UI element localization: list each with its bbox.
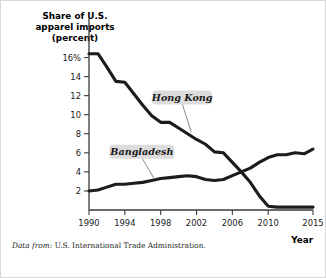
y-axis-title-line: (percent) — [52, 33, 98, 43]
x-tick-label: 2006 — [222, 218, 243, 228]
x-tick-label: 1994 — [114, 218, 135, 228]
source-note: Data from: U.S. International Trade Admi… — [12, 241, 206, 250]
series-lines — [89, 54, 313, 207]
series-label-hong-kong: Hong Kong — [151, 92, 213, 103]
y-tick-label: 4 — [76, 167, 81, 177]
x-tick-label: 2015 — [302, 218, 323, 228]
y-axis-title-line: apparel imports — [35, 22, 114, 32]
source-text: U.S. International Trade Administration. — [55, 241, 206, 250]
x-tick-label: 1998 — [150, 218, 171, 228]
y-tick-label: 10 — [70, 110, 81, 120]
y-tick-label: 8 — [76, 129, 81, 139]
y-tick-label: 12 — [70, 91, 81, 101]
y-tick-label: 14 — [70, 72, 81, 82]
series-annotations: Hong KongBangladesh — [109, 91, 212, 179]
y-tick-label: 16% — [62, 53, 81, 63]
annotation-leader-line — [182, 104, 191, 132]
x-tick-label: 1990 — [78, 218, 99, 228]
y-axis-title: Share of U.S.apparel imports(percent) — [35, 11, 114, 43]
source-prefix: Data from: — [12, 241, 52, 250]
x-tick-label: 2010 — [258, 218, 279, 228]
line-chart: Share of U.S.apparel imports(percent) 24… — [1, 1, 326, 278]
x-axis-title: Year — [290, 235, 313, 245]
series-label-bangladesh: Bangladesh — [109, 146, 173, 157]
y-axis-ticks: 246810121416% — [62, 53, 89, 196]
y-tick-label: 2 — [76, 186, 81, 196]
annotation-leader-line — [142, 158, 155, 179]
x-tick-label: 2002 — [186, 218, 207, 228]
y-axis-title-line: Share of U.S. — [43, 11, 108, 21]
chart-figure: Share of U.S.apparel imports(percent) 24… — [0, 0, 326, 278]
x-axis-ticks: 1990199419982002200620102015 — [78, 210, 323, 228]
y-tick-label: 6 — [76, 148, 81, 158]
